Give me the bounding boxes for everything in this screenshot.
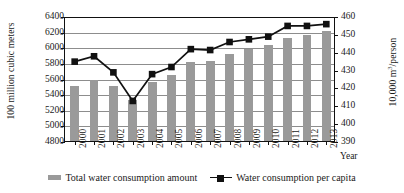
- legend-item-total-water: Total water consumption amount: [48, 172, 197, 183]
- x-tick-label: 2006: [194, 129, 204, 148]
- legend-label-per-capita: Water consumption per capita: [236, 172, 355, 183]
- x-tick-label: 2007: [213, 129, 223, 148]
- x-tick-mark: [307, 141, 308, 145]
- x-tick-label: 2002: [116, 129, 126, 148]
- right-tick-mark: [334, 53, 338, 54]
- x-tick-mark: [230, 141, 231, 145]
- left-tick-label: 6200: [30, 28, 64, 38]
- left-tick-label: 5600: [30, 75, 64, 85]
- left-tick-label: 6000: [30, 43, 64, 53]
- x-tick-label: 2009: [252, 129, 262, 148]
- line-series: [65, 17, 336, 142]
- x-tick-mark: [288, 141, 289, 145]
- x-tick-label: 2000: [78, 129, 88, 148]
- x-tick-mark: [210, 141, 211, 145]
- x-tick-mark: [326, 141, 327, 145]
- right-tick-label: 410: [341, 101, 371, 111]
- left-tick-label: 5800: [30, 59, 64, 69]
- right-tick-label: 440: [341, 48, 371, 58]
- line-marker: [71, 58, 78, 65]
- x-axis-title: Year: [340, 151, 358, 161]
- x-tick-mark: [94, 141, 95, 145]
- x-tick-label: 2012: [310, 129, 320, 148]
- right-tick-mark: [334, 124, 338, 125]
- line-marker: [265, 33, 272, 40]
- right-tick-label: 400: [341, 119, 371, 129]
- x-tick-label: 2003: [136, 129, 146, 148]
- x-tick-mark: [152, 141, 153, 145]
- line-marker-swatch-icon: [210, 173, 232, 182]
- x-tick-label: 2011: [291, 129, 301, 148]
- legend-label-total-water: Total water consumption amount: [65, 172, 197, 183]
- x-tick-mark: [133, 141, 134, 145]
- x-tick-label: 2004: [155, 129, 165, 148]
- right-tick-label: 390: [341, 137, 371, 147]
- line-path: [75, 24, 327, 101]
- right-tick-label: 460: [341, 12, 371, 22]
- x-tick-label: 2010: [271, 129, 281, 148]
- line-marker: [284, 23, 291, 30]
- right-tick-label: 450: [341, 30, 371, 40]
- x-tick-label: 2005: [174, 129, 184, 148]
- line-marker: [323, 21, 330, 28]
- x-tick-label: 2013: [329, 129, 339, 148]
- right-tick-label: 420: [341, 83, 371, 93]
- line-marker: [129, 98, 136, 105]
- right-axis-title-prefix: 10,000 m: [388, 70, 398, 107]
- right-tick-label: 430: [341, 66, 371, 76]
- left-tick-label: 5400: [30, 90, 64, 100]
- bar-swatch-icon: [48, 175, 61, 180]
- right-tick-mark: [334, 106, 338, 107]
- right-tick-mark: [334, 71, 338, 72]
- x-tick-mark: [191, 141, 192, 145]
- plot-area: [64, 17, 335, 142]
- right-tick-mark: [334, 35, 338, 36]
- legend-item-per-capita: Water consumption per capita: [210, 172, 355, 183]
- x-tick-mark: [249, 141, 250, 145]
- right-tick-mark: [334, 17, 338, 18]
- line-marker: [168, 64, 175, 71]
- line-marker: [304, 23, 311, 30]
- line-marker: [91, 53, 98, 60]
- left-tick-label: 6400: [30, 12, 64, 22]
- x-tick-label: 2008: [233, 129, 243, 148]
- x-tick-mark: [171, 141, 172, 145]
- x-tick-label: 2001: [97, 129, 107, 148]
- left-tick-label: 4800: [30, 137, 64, 147]
- x-tick-mark: [268, 141, 269, 145]
- right-axis-title: 10,000 m3/person: [386, 7, 398, 137]
- line-marker: [110, 69, 117, 76]
- right-axis-title-suffix: /person: [388, 38, 398, 67]
- left-tick-label: 5000: [30, 121, 64, 131]
- x-tick-mark: [75, 141, 76, 145]
- line-marker: [207, 47, 214, 54]
- left-tick-label: 5200: [30, 106, 64, 116]
- water-consumption-chart: 100 million cubic meters 10,000 m3/perso…: [0, 0, 404, 193]
- right-tick-mark: [334, 88, 338, 89]
- line-marker: [188, 46, 195, 53]
- left-axis-title: 100 million cubic meters: [6, 6, 16, 136]
- x-tick-mark: [113, 141, 114, 145]
- line-marker: [226, 39, 233, 46]
- right-axis-title-superscript: 3: [386, 66, 393, 69]
- chart-legend: Total water consumption amount Water con…: [0, 172, 404, 183]
- line-marker: [246, 36, 253, 43]
- line-marker: [149, 71, 156, 78]
